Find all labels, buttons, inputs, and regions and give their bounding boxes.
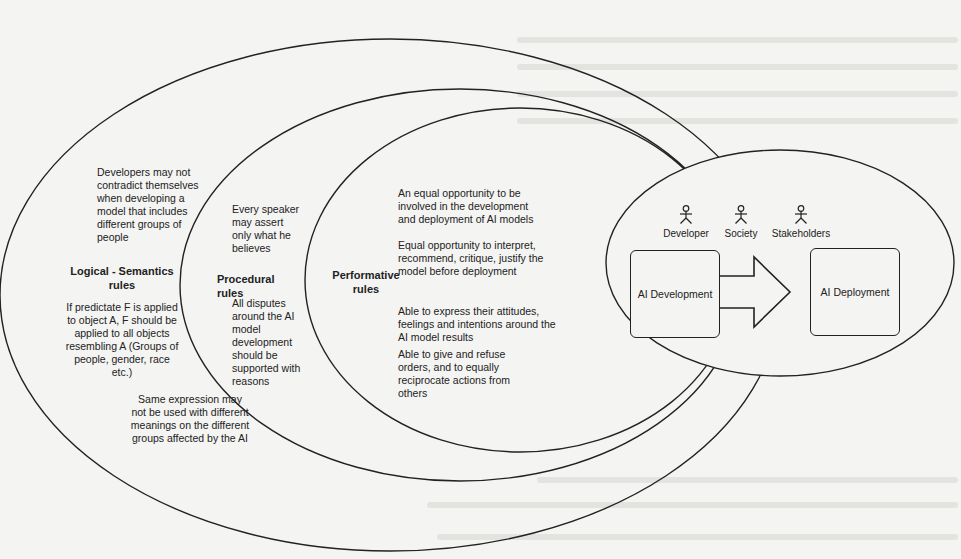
actor-developer: Developer <box>656 205 716 239</box>
logical-note-predicate: If predictate F is applied to object A, … <box>52 301 192 379</box>
actor-developer-label: Developer <box>663 228 709 239</box>
stick-figure-icon <box>793 205 809 225</box>
actor-stakeholders: Stakeholders <box>768 205 834 239</box>
procedural-rules-title: Procedural rules <box>217 272 297 300</box>
ai-deployment-box: AI Deployment <box>810 248 900 336</box>
performative-note-express: Able to express their attitudes, feeling… <box>398 305 556 344</box>
performative-note-interpret: Equal opportunity to interpret, recommen… <box>398 239 543 278</box>
ai-development-box: AI Development <box>630 250 720 338</box>
logical-semantics-rules-title: Logical - Semantics rules <box>62 264 182 292</box>
stick-figure-icon <box>678 205 694 225</box>
actor-society: Society <box>711 205 771 239</box>
ai-development-label: AI Development <box>638 288 713 300</box>
logical-note-contradict: Developers may not contradict themselves… <box>97 166 199 244</box>
actor-society-label: Society <box>725 228 758 239</box>
actor-stakeholders-label: Stakeholders <box>772 228 830 239</box>
procedural-note-assert: Every speaker may assert only what he be… <box>232 203 299 255</box>
ai-deployment-label: AI Deployment <box>821 286 890 298</box>
logical-note-expression: Same expression may not be used with dif… <box>125 393 255 445</box>
performative-note-involved: An equal opportunity to be involved in t… <box>398 187 533 226</box>
procedural-note-disputes: All disputes around the AI model develop… <box>232 297 300 388</box>
diagram-canvas: Developers may not contradict themselves… <box>0 0 961 559</box>
performative-note-orders: Able to give and refuse orders, and to e… <box>398 348 510 400</box>
stick-figure-icon <box>733 205 749 225</box>
performative-rules-title: Performative rules <box>327 268 405 296</box>
